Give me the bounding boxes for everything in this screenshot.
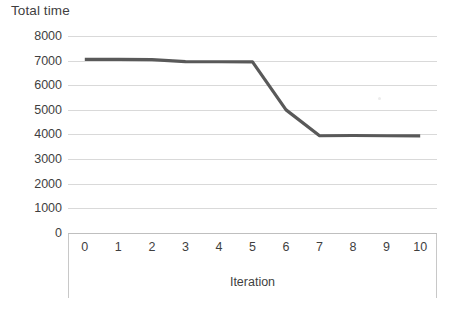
- x-axis-tick-label: 6: [283, 240, 290, 255]
- x-axis-tick-label: 2: [148, 240, 155, 255]
- x-axis-tick-label: 8: [350, 240, 357, 255]
- x-axis-tick-label-group: 0 1 2 3 4 5 6 7 8 9 10: [68, 240, 437, 258]
- y-axis-tick-label: 2000: [0, 178, 62, 191]
- x-axis-title: Iteration: [68, 275, 437, 290]
- x-axis-tick-label: 1: [115, 240, 122, 255]
- x-axis-tick-label: 0: [81, 240, 88, 255]
- x-axis-tick-label: 10: [413, 240, 427, 255]
- series-polyline: [85, 59, 420, 135]
- plot-area: [68, 36, 437, 233]
- y-axis-tick-label: 1000: [0, 202, 62, 215]
- y-axis-tick-label: 0: [0, 227, 62, 240]
- x-axis-tick-label: 3: [182, 240, 189, 255]
- line-chart: Total time 8000 7000 6000 5000 4000 3000…: [0, 0, 454, 309]
- y-axis-tick-label: 3000: [0, 153, 62, 166]
- x-axis-tick-label: 5: [249, 240, 256, 255]
- data-series-total-time: [68, 36, 437, 233]
- x-axis-tick-label: 4: [215, 240, 222, 255]
- y-axis-tick-label: 8000: [0, 30, 62, 43]
- x-axis-tick-label: 7: [316, 240, 323, 255]
- y-axis-tick-label: 7000: [0, 55, 62, 68]
- y-axis-tick-label: 4000: [0, 128, 62, 141]
- y-axis-tick-label: 5000: [0, 104, 62, 117]
- y-axis-tick-label: 6000: [0, 79, 62, 92]
- x-axis-tick-label: 9: [383, 240, 390, 255]
- y-axis-tick-label-group: 8000 7000 6000 5000 4000 3000 2000 1000 …: [0, 0, 62, 309]
